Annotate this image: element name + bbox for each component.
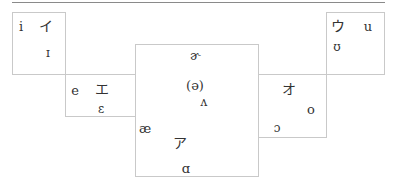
- symbol-u: u: [364, 20, 372, 33]
- symbol-rhotic-schwa: ɚ: [190, 50, 200, 62]
- symbol-ash: æ: [139, 122, 151, 135]
- region-central: [135, 44, 259, 177]
- symbol-schwa: (ə): [186, 79, 204, 92]
- symbol-i: i: [19, 20, 23, 33]
- symbol-wedge: ʌ: [201, 96, 208, 108]
- symbol-e: e: [71, 84, 79, 97]
- symbol-script-a: ɑ: [182, 162, 190, 175]
- symbol-u-kana: ウ: [331, 19, 345, 33]
- symbol-horseshoe-u: ʊ: [333, 41, 340, 53]
- symbol-a-kana: ア: [173, 136, 187, 150]
- symbol-e-kana: エ: [95, 82, 109, 96]
- symbol-near-i: ɪ: [46, 47, 50, 59]
- symbol-open-e: ɛ: [98, 103, 104, 115]
- symbol-o: o: [307, 103, 315, 116]
- top-rule: [12, 2, 385, 3]
- symbol-o-kana: オ: [282, 82, 296, 96]
- symbol-i-kana: イ: [39, 19, 53, 33]
- symbol-open-o: ɔ: [274, 122, 281, 134]
